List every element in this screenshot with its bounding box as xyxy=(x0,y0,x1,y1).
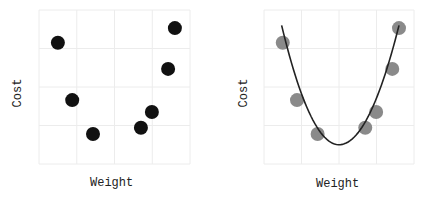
data-point xyxy=(168,21,182,35)
scatter-plot-left: Cost Weight xyxy=(0,0,213,203)
data-point xyxy=(51,36,65,50)
data-point xyxy=(161,62,175,76)
data-points xyxy=(276,21,406,141)
y-axis-label-left: Cost xyxy=(11,79,25,108)
y-axis-label-right: Cost xyxy=(237,79,251,108)
scatter-plot-right-with-fit: Cost Weight xyxy=(213,0,426,203)
plot-area-left xyxy=(0,0,213,203)
x-axis-label-right: Weight xyxy=(316,177,359,191)
data-point xyxy=(86,127,100,141)
data-points xyxy=(51,21,182,141)
fit-curve xyxy=(282,25,399,144)
grid xyxy=(39,10,190,164)
x-axis-label-left: Weight xyxy=(90,176,133,190)
data-point xyxy=(145,105,159,119)
data-point xyxy=(65,93,79,107)
grid xyxy=(264,10,414,164)
data-point xyxy=(134,121,148,135)
